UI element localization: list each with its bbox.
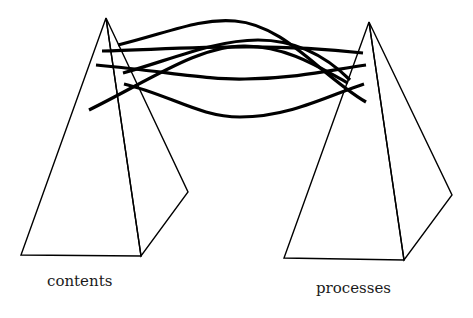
contents-label: contents — [47, 272, 112, 290]
processes-label: processes — [316, 279, 391, 297]
left-pyramid — [21, 18, 188, 256]
left-pyramid-side-face — [106, 18, 188, 256]
right-pyramid-side-face — [369, 22, 452, 260]
connector-strand — [124, 84, 364, 117]
diagram-canvas — [0, 0, 473, 318]
connector-strands — [89, 21, 366, 117]
